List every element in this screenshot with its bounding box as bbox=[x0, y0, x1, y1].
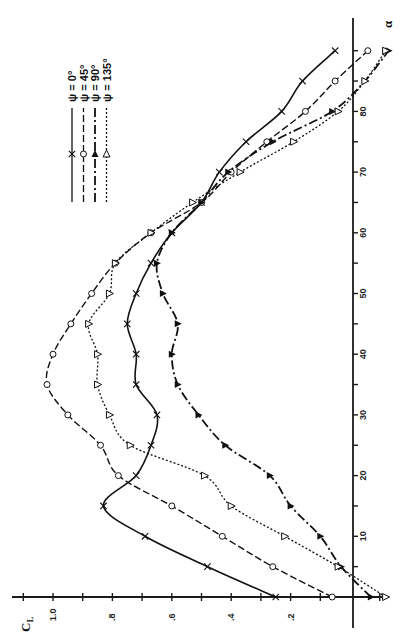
open-triangle-marker-icon bbox=[95, 351, 102, 358]
cl-axis-label-main: C bbox=[18, 623, 33, 632]
circle-marker-icon bbox=[169, 503, 175, 509]
cl-tick-label: .2 bbox=[286, 613, 296, 621]
open-triangle-marker-icon bbox=[383, 594, 390, 601]
circle-marker-icon bbox=[81, 151, 87, 157]
x-marker-icon bbox=[142, 533, 148, 539]
circle-marker-icon bbox=[219, 533, 225, 539]
cl-tick-label: 1.0 bbox=[48, 608, 58, 621]
legend-item: ψ = 135° bbox=[101, 58, 113, 202]
circle-marker-icon bbox=[89, 291, 95, 297]
series-135-deg bbox=[86, 47, 390, 600]
legend-label: ψ = 45° bbox=[78, 65, 90, 102]
alpha-tick-label: 50 bbox=[358, 288, 368, 298]
circle-marker-icon bbox=[65, 412, 71, 418]
alpha-axis-label: α bbox=[380, 20, 395, 28]
open-triangle-marker-icon bbox=[106, 411, 113, 418]
series-line bbox=[88, 51, 385, 597]
legend-item: ψ = 90° bbox=[89, 65, 101, 202]
x-marker-icon bbox=[332, 48, 338, 54]
alpha-tick-label: 30 bbox=[358, 410, 368, 420]
circle-marker-icon bbox=[50, 351, 56, 357]
legend: ψ = 0°ψ = 45°ψ = 90°ψ = 135° bbox=[66, 58, 113, 202]
lift-coefficient-chart: 1020304050607080.2.4.6.81.0 ψ = 0°ψ = 45… bbox=[0, 0, 410, 640]
x-marker-icon bbox=[216, 169, 222, 175]
filled-triangle-marker-icon bbox=[368, 594, 375, 601]
filled-triangle-marker-icon bbox=[196, 411, 203, 418]
circle-marker-icon bbox=[302, 108, 308, 114]
alpha-tick-label: 80 bbox=[358, 106, 368, 116]
legend-item: ψ = 45° bbox=[78, 65, 90, 202]
cl-tick-label: .4 bbox=[226, 613, 236, 621]
alpha-tick-label: 40 bbox=[358, 349, 368, 359]
x-marker-icon bbox=[299, 78, 305, 84]
circle-marker-icon bbox=[365, 48, 371, 54]
open-triangle-marker-icon bbox=[103, 150, 110, 157]
open-triangle-marker-icon bbox=[282, 533, 289, 540]
x-marker-icon bbox=[278, 108, 284, 114]
filled-triangle-marker-icon bbox=[175, 381, 182, 388]
cl-axis-label: CL bbox=[18, 617, 35, 632]
open-triangle-marker-icon bbox=[86, 320, 93, 327]
legend-label: ψ = 90° bbox=[89, 65, 101, 102]
x-marker-icon bbox=[204, 563, 210, 569]
x-marker-icon bbox=[243, 139, 249, 145]
open-triangle-marker-icon bbox=[335, 108, 342, 115]
circle-marker-icon bbox=[270, 564, 276, 570]
alpha-tick-label: 20 bbox=[358, 471, 368, 481]
alpha-tick-label: 70 bbox=[358, 167, 368, 177]
circle-marker-icon bbox=[98, 442, 104, 448]
circle-marker-icon bbox=[68, 321, 74, 327]
cl-tick-label: .6 bbox=[167, 613, 177, 621]
circle-marker-icon bbox=[329, 594, 335, 600]
x-marker-icon bbox=[148, 260, 154, 266]
alpha-tick-label: 10 bbox=[358, 531, 368, 541]
plot-series bbox=[44, 47, 393, 600]
open-triangle-marker-icon bbox=[228, 502, 235, 509]
x-marker-icon bbox=[133, 472, 139, 478]
circle-marker-icon bbox=[115, 473, 121, 479]
filled-triangle-marker-icon bbox=[288, 502, 295, 509]
legend-label: ψ = 0° bbox=[66, 71, 78, 102]
filled-triangle-marker-icon bbox=[270, 138, 277, 145]
legend-item: ψ = 0° bbox=[66, 71, 78, 202]
x-marker-icon bbox=[133, 290, 139, 296]
legend-label: ψ = 135° bbox=[101, 58, 113, 102]
filled-triangle-marker-icon bbox=[160, 290, 167, 297]
filled-triangle-marker-icon bbox=[175, 320, 182, 327]
cl-axis-label-sub: L bbox=[25, 617, 35, 623]
cl-tick-label: .8 bbox=[107, 613, 117, 621]
filled-triangle-marker-icon bbox=[92, 150, 99, 157]
alpha-tick-label: 60 bbox=[358, 228, 368, 238]
circle-marker-icon bbox=[332, 78, 338, 84]
circle-marker-icon bbox=[44, 382, 50, 388]
